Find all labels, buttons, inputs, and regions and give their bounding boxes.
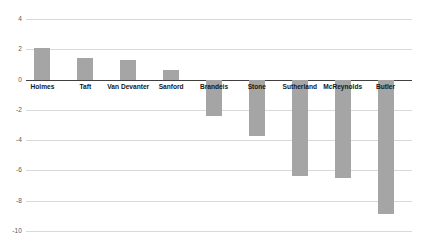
bar xyxy=(378,80,394,215)
gridline xyxy=(26,201,412,202)
bar xyxy=(77,58,93,79)
bar xyxy=(120,60,136,80)
gridline xyxy=(26,49,412,50)
y-axis-tick-label: 0 xyxy=(2,77,22,84)
category-label: Holmes xyxy=(31,84,55,91)
category-label: Sanford xyxy=(159,84,184,91)
y-axis-tick-label: -6 xyxy=(2,167,22,174)
bar xyxy=(292,80,308,177)
gridline xyxy=(26,231,412,232)
y-axis-tick-label: -8 xyxy=(2,198,22,205)
y-axis-tick-label: -10 xyxy=(2,228,22,235)
category-label: McReynolds xyxy=(323,84,362,91)
gridline xyxy=(26,170,412,171)
y-axis-tick-label: -4 xyxy=(2,137,22,144)
category-label: Brandeis xyxy=(200,84,228,91)
category-label: Butler xyxy=(376,84,395,91)
category-label: Stone xyxy=(248,84,266,91)
y-axis-tick-label: 4 xyxy=(2,16,22,23)
category-label: Van Devanter xyxy=(107,84,149,91)
y-axis-tick-label: -2 xyxy=(2,107,22,114)
bar xyxy=(163,70,179,79)
plot-area: HolmesTaftVan DevanterSanfordBrandeisSto… xyxy=(26,19,412,231)
bar xyxy=(34,48,50,80)
y-axis-tick-label: 2 xyxy=(2,46,22,53)
bar xyxy=(335,80,351,178)
category-label: Sutherland xyxy=(283,84,317,91)
bar-chart: HolmesTaftVan DevanterSanfordBrandeisSto… xyxy=(0,0,427,246)
gridline xyxy=(26,19,412,20)
gridline xyxy=(26,140,412,141)
category-label: Taft xyxy=(80,84,92,91)
